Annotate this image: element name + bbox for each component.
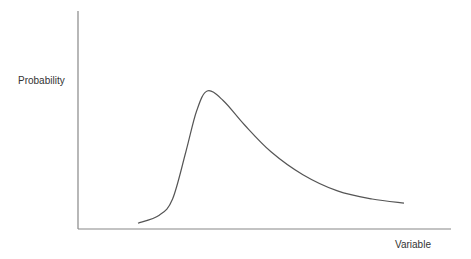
distribution-curve (138, 91, 404, 224)
chart-plot (0, 0, 471, 259)
